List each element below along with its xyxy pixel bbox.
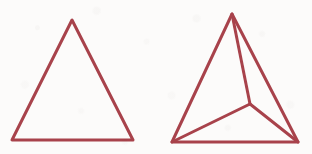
ink-layer [12, 14, 298, 142]
drawing-canvas [0, 0, 312, 154]
figure-right [172, 14, 298, 142]
figure-left [12, 20, 133, 140]
left-triangle-outline [12, 20, 133, 140]
cevian-to-bottom-right-icon [250, 104, 298, 142]
cevian-to-apex-icon [232, 14, 250, 104]
cevian-to-bottom-left-icon [172, 104, 250, 142]
figure-group [0, 0, 312, 154]
